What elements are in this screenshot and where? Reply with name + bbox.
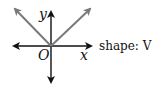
x-axis-label: x bbox=[80, 47, 88, 63]
shape-caption: shape: V bbox=[99, 39, 152, 53]
y-axis-label: y bbox=[38, 6, 48, 22]
v-graph-diagram: y O x shape: V bbox=[0, 0, 155, 90]
v-right-branch bbox=[51, 9, 90, 46]
origin-label: O bbox=[38, 47, 50, 63]
